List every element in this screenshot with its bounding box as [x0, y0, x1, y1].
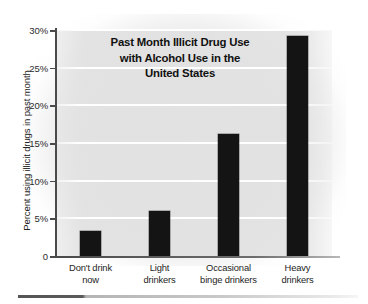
y-tick-25% [50, 68, 56, 70]
bar-3 [287, 36, 308, 256]
bar-1 [149, 211, 170, 256]
y-tick-10% [50, 181, 56, 183]
chart-title: Past Month Illicit Drug Usewith Alcohol … [82, 35, 278, 82]
y-tick-label-30%: 30% [2, 25, 48, 36]
chart-title-line-1: with Alcohol Use in the [82, 51, 278, 67]
bar-2 [218, 134, 239, 256]
category-label-3-line-0: Heavy [252, 262, 344, 274]
chart-title-line-0: Past Month Illicit Drug Use [82, 35, 278, 51]
chart-title-line-2: United States [82, 66, 278, 82]
y-tick-20% [50, 105, 56, 107]
chart-figure: 05%10%15%20%25%30% Percent using illicit… [0, 0, 368, 304]
y-tick-label-0: 0 [2, 251, 48, 262]
y-tick-30% [50, 30, 56, 32]
category-label-3-line-1: drinkers [252, 274, 344, 286]
bottom-divider [18, 295, 358, 298]
y-axis-title: Percent using illicit drugs in past mont… [21, 51, 32, 251]
bar-0 [80, 231, 101, 256]
gridline-30 [56, 29, 332, 31]
y-tick-0 [50, 256, 56, 258]
category-label-3: Heavydrinkers [252, 262, 344, 287]
x-axis-line [55, 256, 340, 258]
y-tick-15% [50, 143, 56, 145]
y-tick-5% [50, 218, 56, 220]
